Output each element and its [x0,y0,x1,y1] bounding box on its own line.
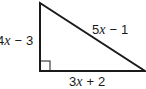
right-triangle-diagram: 4x−3 5x−1 3x+2 [0,0,146,89]
right-angle-marker [40,61,50,71]
triangle-shape [40,3,145,71]
left-side-label: 4x−3 [0,33,33,48]
hypotenuse-label: 5x−1 [92,22,128,37]
bottom-side-label: 3x+2 [69,74,105,89]
